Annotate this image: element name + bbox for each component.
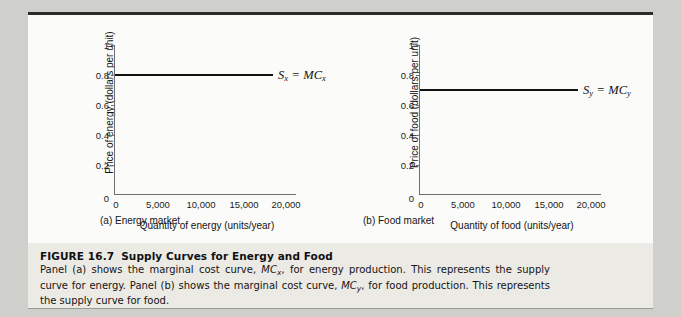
y-tick-b-06 [416, 105, 420, 106]
x-tick-label-b-10000: 10,000 [491, 199, 520, 210]
caption-mc-x: MC [261, 264, 277, 275]
curve-label-a: Sx = MCx [278, 68, 326, 83]
y-tick-label-a-1: 1 [104, 40, 109, 51]
supply-curve-b [420, 89, 578, 91]
curve-label-b-mc-sub: y [627, 88, 631, 98]
curve-label-b-mc: MC [608, 83, 627, 97]
figure-title: Supply Curves for Energy and Food [121, 250, 333, 262]
caption-text-1: Panel (a) shows the marginal cost curve, [40, 264, 261, 275]
x-tick-label-a-0: 0 [113, 199, 118, 210]
curve-label-b: Sy = MCy [583, 83, 631, 98]
y-tick-label-b-04: 0.4 [401, 130, 414, 141]
y-tick-label-a-06: 0.6 [96, 100, 109, 111]
x-tick-label-a-20000: 20,000 [271, 199, 300, 210]
y-tick-a-06 [111, 105, 115, 106]
y-axis-a [114, 45, 115, 195]
y-tick-b-04 [416, 135, 420, 136]
y-tick-label-a-08: 0.8 [96, 70, 109, 81]
x-axis-b [419, 194, 601, 195]
caption-mc-y: MC [341, 280, 357, 291]
y-tick-label-b-08: 0.8 [401, 70, 414, 81]
chart-panel-b: Price of food (dollars per unit) 1 0.8 0… [333, 15, 645, 243]
curve-label-a-mc: MC [303, 68, 322, 82]
plot-area-b: 1 0.8 0.6 0.4 0.2 0 0 5,000 10,000 15,00… [419, 45, 597, 195]
figure-caption-body: Panel (a) shows the marginal cost curve,… [40, 264, 550, 308]
y-tick-a-1 [111, 45, 115, 46]
y-tick-label-b-02: 0.2 [401, 160, 414, 171]
plot-area-a: 1 0.8 0.6 0.4 0.2 0 0 5,000 10,000 15,00… [114, 45, 292, 195]
y-axis-title-wrap-b: Price of food (dollars per unit) [395, 37, 415, 197]
x-tick-label-a-5000: 5,000 [146, 199, 170, 210]
y-tick-a-02 [111, 165, 115, 166]
curve-label-b-eq: = [593, 83, 608, 97]
y-tick-a-04 [111, 135, 115, 136]
x-tick-label-b-15000: 15,000 [534, 199, 563, 210]
figure-caption-block: FIGURE 16.7Supply Curves for Energy and … [28, 243, 653, 308]
figure-caption-title: FIGURE 16.7Supply Curves for Energy and … [40, 250, 641, 262]
supply-curve-a [115, 74, 273, 76]
subcaption-b: (b) Food market [363, 215, 434, 226]
figure-bottom-rule [28, 308, 653, 309]
y-tick-label-b-0: 0 [409, 193, 414, 204]
y-axis-b [419, 45, 420, 195]
x-axis-title-b: Quantity of food (units/year) [419, 220, 605, 231]
x-tick-label-b-20000: 20,000 [576, 199, 605, 210]
x-axis-a [114, 194, 296, 195]
y-tick-b-02 [416, 165, 420, 166]
x-tick-label-b-0: 0 [418, 199, 423, 210]
curve-label-a-eq: = [288, 68, 303, 82]
curve-label-a-mc-sub: x [322, 73, 326, 83]
y-axis-title-wrap-a: Price of energy (dollars per unit) [90, 37, 110, 197]
x-tick-label-b-5000: 5,000 [451, 199, 475, 210]
y-tick-label-a-04: 0.4 [96, 130, 109, 141]
y-tick-label-b-1: 1 [409, 40, 414, 51]
y-tick-label-a-0: 0 [104, 193, 109, 204]
y-tick-label-b-06: 0.6 [401, 100, 414, 111]
y-tick-label-a-02: 0.2 [96, 160, 109, 171]
chart-panel-a: Price of energy (dollars per unit) 1 0.8… [28, 15, 340, 243]
subcaption-a: (a) Energy market [100, 215, 180, 226]
chart-area: Price of energy (dollars per unit) 1 0.8… [28, 15, 653, 243]
figure-number: FIGURE 16.7 [40, 250, 121, 262]
x-tick-label-a-15000: 15,000 [229, 199, 258, 210]
y-tick-b-08 [416, 75, 420, 76]
x-tick-label-a-10000: 10,000 [186, 199, 215, 210]
y-tick-b-1 [416, 45, 420, 46]
